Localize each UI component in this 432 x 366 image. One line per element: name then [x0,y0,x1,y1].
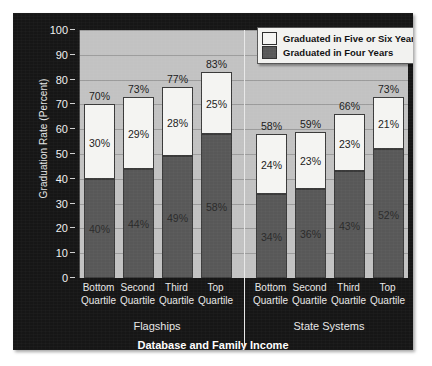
bar-label-five-six-years: 30% [85,137,113,149]
bar-segment-four-years: 52% [373,149,403,278]
bar-label-four-years: 43% [335,220,363,232]
table-row: 52%21%73% [373,97,403,278]
y-tick-60: 60 [31,123,75,135]
group-label-flagships: Flagships [79,320,235,332]
chart-figure: Graduation Rate (Percent) 10090807060504… [13,13,413,350]
y-tick-80: 80 [31,74,75,86]
bar-label-four-years: 44% [124,218,152,230]
legend-swatch-icon [262,46,277,59]
bar-segment-five-six-years: 25% [201,72,231,134]
group-label-state-systems: State Systems [251,320,407,332]
y-axis-ticks: 1009080706050403020100 [31,17,75,277]
bar-label-five-six-years: 23% [335,138,363,150]
x-tick-line: Bottom [83,282,115,293]
table-row: 40%30%70% [84,104,114,278]
table-row: 58%25%83% [201,72,231,278]
x-tick-line: Second [121,282,155,293]
bar-segment-five-six-years: 21% [373,97,403,149]
bar-label-total: 59% [295,118,325,130]
bar-label-total: 73% [373,83,403,95]
y-tick-label: 40 [56,173,75,185]
y-tick-90: 90 [31,49,75,61]
x-tick-line: Quartile [364,294,411,307]
x-tick-line: Top [379,282,395,293]
bar-segment-four-years: 36% [295,189,325,278]
bar-label-total: 77% [162,73,192,85]
table-row: 36%23%59% [295,132,325,278]
y-tick-label: 70 [56,98,75,110]
bar-segment-five-six-years: 28% [162,87,192,156]
plot-area: 40%30%70%44%29%73%49%28%77%58%25%83%34%2… [79,30,408,278]
table-row: 43%23%66% [334,114,364,278]
y-tick-label: 20 [56,222,75,234]
table-row: 44%29%73% [123,97,153,278]
y-tick-20: 20 [31,222,75,234]
bar-segment-five-six-years: 29% [123,97,153,169]
x-axis-ticks: BottomQuartileSecondQuartileThirdQuartil… [79,281,407,321]
bar-segment-four-years: 34% [256,194,286,278]
x-tick-line: Third [337,282,360,293]
y-tick-label: 30 [56,198,75,210]
bar-label-five-six-years: 21% [374,118,402,130]
y-tick-label: 100 [50,24,75,36]
bar-label-four-years: 34% [257,231,285,243]
bar-segment-five-six-years: 23% [334,114,364,171]
y-tick-30: 30 [31,198,75,210]
y-tick-label: 60 [56,123,75,135]
bar-label-five-six-years: 25% [202,98,230,110]
y-tick-100: 100 [31,24,75,36]
bar-label-total: 58% [256,120,286,132]
legend-swatch-icon [262,32,277,45]
bar-segment-four-years: 49% [162,156,192,278]
y-tick-40: 40 [31,173,75,185]
legend-item: Graduated in Four Years [262,46,413,59]
bar-segment-five-six-years: 23% [295,132,325,189]
y-tick-label: 50 [56,148,75,160]
x-tick-line: Top [207,282,223,293]
x-tick-label: TopQuartile [192,281,239,307]
y-tick-50: 50 [31,148,75,160]
table-row: 49%28%77% [162,87,192,278]
x-tick-line: Bottom [255,282,287,293]
bar-segment-five-six-years: 24% [256,134,286,194]
bar-label-total: 66% [334,100,364,112]
group-divider [244,30,245,348]
bar-label-four-years: 49% [163,212,191,224]
bar-label-five-six-years: 29% [124,128,152,140]
x-tick-line: Quartile [192,294,239,307]
bar-segment-four-years: 44% [123,169,153,278]
legend-item: Graduated in Five or Six Years [262,32,413,45]
x-tick-line: Second [293,282,327,293]
y-tick-0: 0 [31,272,75,284]
bar-segment-four-years: 43% [334,171,364,278]
bar-label-five-six-years: 28% [163,117,191,129]
y-tick-label: 80 [56,74,75,86]
y-tick-70: 70 [31,98,75,110]
chart-title: Database and Family Income [13,339,413,350]
bar-segment-five-six-years: 30% [84,104,114,178]
y-tick-label: 90 [56,49,75,61]
bar-label-four-years: 52% [374,209,402,221]
y-tick-label: 0 [62,272,75,284]
bar-label-total: 70% [84,90,114,102]
chart-legend: Graduated in Five or Six YearsGraduated … [257,27,413,64]
legend-label: Graduated in Five or Six Years [283,33,413,44]
legend-label: Graduated in Four Years [283,47,393,58]
bar-label-five-six-years: 24% [257,159,285,171]
y-tick-label: 10 [56,247,75,259]
bar-label-total: 73% [123,83,153,95]
bar-segment-four-years: 58% [201,134,231,278]
bar-segment-four-years: 40% [84,179,114,278]
bar-label-five-six-years: 23% [296,155,324,167]
y-tick-10: 10 [31,247,75,259]
bar-label-four-years: 40% [85,223,113,235]
bar-label-four-years: 58% [202,201,230,213]
x-tick-label: TopQuartile [364,281,411,307]
bar-label-total: 83% [201,58,231,70]
bar-label-four-years: 36% [296,228,324,240]
table-row: 34%24%58% [256,134,286,278]
x-tick-line: Third [165,282,188,293]
